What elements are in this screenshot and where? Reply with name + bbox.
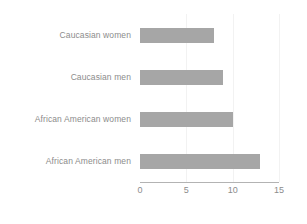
category-label-row: Caucasian men [0, 56, 136, 98]
bar-row [140, 140, 279, 182]
gridline [279, 14, 280, 182]
category-axis: Caucasian women Caucasian men African Am… [0, 14, 136, 182]
bars-layer [140, 14, 279, 182]
category-label-caucasian-men: Caucasian men [71, 72, 131, 82]
x-axis-line [140, 182, 279, 183]
x-tick-label: 10 [228, 185, 238, 195]
category-label-african-american-women: African American women [35, 114, 131, 124]
category-label-caucasian-women: Caucasian women [60, 30, 131, 40]
bar-chart: Caucasian women Caucasian men African Am… [0, 0, 307, 224]
bar-caucasian-men [140, 70, 223, 85]
bar-caucasian-women [140, 28, 214, 43]
bar-african-american-men [140, 154, 260, 169]
category-label-african-american-men: African American men [46, 156, 131, 166]
x-tick-label: 15 [274, 185, 284, 195]
value-axis: 051015 [140, 185, 279, 205]
bar-row [140, 98, 279, 140]
plot-area [140, 14, 279, 182]
x-tick-label: 0 [137, 185, 142, 195]
bar-row [140, 56, 279, 98]
bar-african-american-women [140, 112, 233, 127]
category-label-row: African American women [0, 98, 136, 140]
bar-row [140, 14, 279, 56]
category-label-row: Caucasian women [0, 14, 136, 56]
x-tick-label: 5 [184, 185, 189, 195]
category-label-row: African American men [0, 140, 136, 182]
